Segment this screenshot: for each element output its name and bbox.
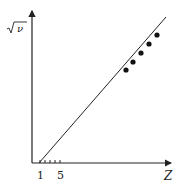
x-tick-label-1: 1 — [37, 169, 44, 182]
x-tick-label-5: 5 — [57, 169, 64, 182]
svg-text:ν: ν — [17, 23, 23, 34]
moseley-diagram: ν 1 5 Z — [0, 0, 187, 194]
data-point — [130, 59, 135, 64]
data-points — [123, 32, 159, 72]
y-axis-label: ν — [7, 22, 27, 34]
data-point — [138, 50, 143, 55]
data-point — [146, 41, 151, 46]
data-point — [123, 67, 128, 72]
data-point — [154, 32, 159, 37]
fit-line — [39, 17, 166, 163]
x-axis-label: Z — [163, 169, 173, 183]
